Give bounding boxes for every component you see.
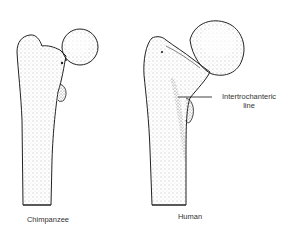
intertrochanteric-label: Intertrochanteric line [214, 92, 284, 110]
femur-comparison-diagram [0, 0, 297, 236]
human-lesser-trochanter [186, 98, 193, 123]
intertrochanteric-label-line2: line [214, 101, 284, 110]
chimpanzee-femur [17, 29, 98, 205]
human-femur [144, 21, 244, 205]
human-caption: Human [160, 212, 220, 221]
chimpanzee-shaft [17, 35, 66, 205]
intertrochanteric-label-line1: Intertrochanteric [214, 92, 284, 101]
chimpanzee-caption: Chimpanzee [18, 215, 78, 224]
